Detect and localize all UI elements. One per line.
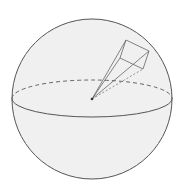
diagram-canvas: Sphere with pyramid from center — [0, 0, 183, 186]
sphere-diagram — [0, 0, 183, 186]
center-point — [91, 98, 94, 101]
